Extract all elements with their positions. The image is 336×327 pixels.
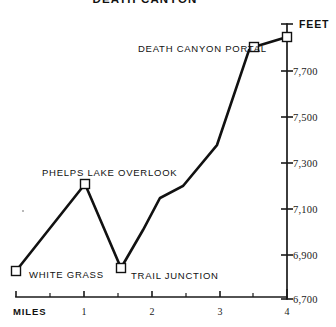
y-tick-label: 6,900 <box>293 250 318 261</box>
marker-phelps-lake-overlook[interactable] <box>81 180 90 189</box>
y-axis-label: FEET <box>299 18 329 30</box>
x-tick-label: 2 <box>150 306 155 317</box>
marker-white-grass[interactable] <box>12 267 21 276</box>
y-tick-label: 7,300 <box>293 158 318 169</box>
point-label-phelps-lake-overlook: PHELPS LAKE OVERLOOK <box>42 167 177 178</box>
marker-trail-junction[interactable] <box>117 264 126 273</box>
point-label-white-grass: WHITE GRASS <box>29 269 104 280</box>
point-label-trail-junction: TRAIL JUNCTION <box>131 270 219 281</box>
y-tick-label: 7,700 <box>293 66 318 77</box>
x-axis-label: MILES <box>13 306 47 317</box>
y-tick-label: 7,100 <box>293 204 318 215</box>
y-tick-label: 7,500 <box>293 112 318 123</box>
elevation-profile-figure: DEATH CANYON <box>0 0 336 327</box>
x-tick-label: 3 <box>218 306 223 317</box>
x-tick-label: 4 <box>285 306 290 317</box>
elevation-profile-line <box>16 37 287 271</box>
point-label-death-canyon-portal: DEATH CANYON PORTAL <box>138 43 267 54</box>
x-tick-label: 1 <box>82 306 87 317</box>
marker-trail-end[interactable] <box>283 33 292 42</box>
y-tick-label: 6,700 <box>293 294 318 305</box>
data-point-markers <box>12 33 292 276</box>
